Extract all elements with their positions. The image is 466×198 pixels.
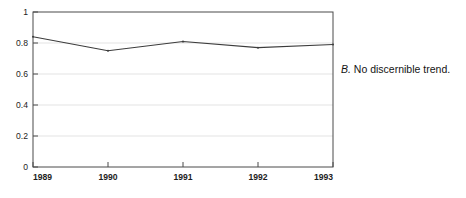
caption-text: No discernible trend. xyxy=(354,63,450,75)
x-tick-label: 1990 xyxy=(98,172,117,182)
data-point xyxy=(107,50,109,52)
data-series xyxy=(32,36,334,52)
x-axis-ticks xyxy=(33,162,333,167)
series-markers xyxy=(32,36,334,52)
figure-panel-b: 1 0.8 0.6 0.4 0.2 0 1989 1990 1991 1992 … xyxy=(0,0,466,198)
series-line xyxy=(33,37,333,51)
x-tick-label: 1992 xyxy=(248,172,267,182)
figure-caption: B. No discernible trend. xyxy=(341,63,450,76)
x-tick-label: 1993 xyxy=(314,172,333,182)
data-point xyxy=(182,40,184,42)
data-point xyxy=(332,44,334,46)
x-tick-labels: 1989 1990 1991 1992 1993 xyxy=(33,172,333,182)
y-tick-label: 0.2 xyxy=(16,131,28,141)
y-axis-ticks xyxy=(33,12,38,167)
x-tick-label: 1991 xyxy=(173,172,192,182)
data-point xyxy=(257,47,259,49)
y-tick-label: 0.6 xyxy=(16,69,28,79)
plot-frame xyxy=(33,12,333,167)
y-tick-label: 0.8 xyxy=(16,38,28,48)
y-tick-label: 0 xyxy=(23,162,28,172)
x-tick-label: 1989 xyxy=(33,172,52,182)
y-tick-label: 0.4 xyxy=(16,100,28,110)
y-tick-label: 1 xyxy=(23,7,28,17)
data-point xyxy=(32,36,34,38)
line-chart: 1 0.8 0.6 0.4 0.2 0 1989 1990 1991 1992 … xyxy=(0,0,466,198)
panel-letter: B. xyxy=(341,63,351,75)
y-tick-labels: 1 0.8 0.6 0.4 0.2 0 xyxy=(16,7,28,172)
gridlines xyxy=(33,43,333,136)
